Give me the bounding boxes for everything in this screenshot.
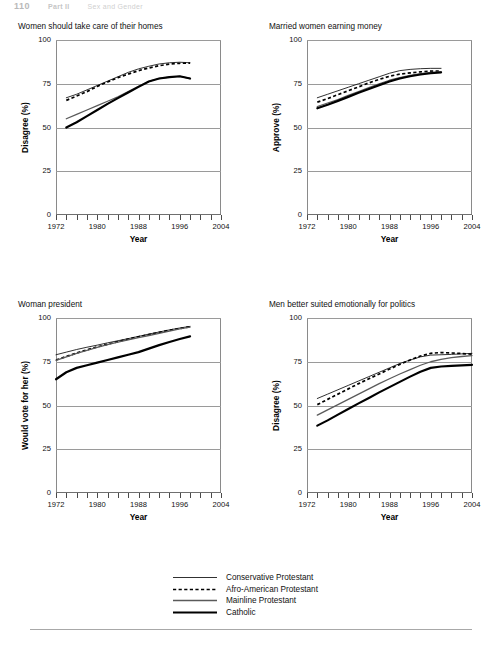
x-tick — [462, 493, 463, 498]
x-tick — [472, 215, 473, 220]
x-tick — [139, 215, 140, 220]
series-layer — [307, 318, 472, 493]
x-tick — [87, 493, 88, 498]
x-tick — [307, 493, 308, 498]
x-axis-title: Year — [307, 234, 472, 244]
x-tick — [472, 493, 473, 498]
x-tick — [307, 215, 308, 220]
x-tick-label: 1988 — [122, 500, 156, 509]
series-line — [317, 72, 441, 108]
figure-legend: Conservative ProtestantAfro-American Pro… — [0, 572, 502, 618]
x-tick — [420, 215, 421, 220]
x-tick-label: 1980 — [331, 222, 365, 231]
x-tick — [169, 215, 170, 220]
y-axis-title: Would vote for her (%) — [20, 318, 30, 493]
x-tick — [200, 493, 201, 498]
x-tick — [379, 493, 380, 498]
x-tick — [149, 215, 150, 220]
legend-label: Mainline Protestant — [226, 596, 296, 605]
x-tick-label: 1980 — [80, 222, 114, 231]
legend-item: Mainline Protestant — [0, 595, 502, 607]
x-tick — [66, 493, 67, 498]
x-tick-label: 2004 — [204, 222, 238, 231]
x-tick — [77, 493, 78, 498]
x-tick — [200, 215, 201, 220]
x-tick — [328, 493, 329, 498]
page-number: 110 — [14, 1, 30, 11]
x-tick — [128, 493, 129, 498]
x-tick — [462, 215, 463, 220]
y-axis-title: Approve (%) — [271, 40, 281, 215]
series-line — [66, 76, 190, 127]
panel-row-bottom: Woman president0255075100Would vote for … — [0, 300, 502, 578]
legend-swatch — [173, 595, 217, 606]
x-tick-label: 2004 — [204, 500, 238, 509]
x-tick — [221, 493, 222, 498]
x-tick — [400, 493, 401, 498]
chart-title: Men better suited emotionally for politi… — [269, 300, 415, 309]
x-tick — [328, 215, 329, 220]
plot-area — [56, 40, 221, 215]
x-tick — [359, 493, 360, 498]
x-tick — [118, 215, 119, 220]
x-tick — [221, 215, 222, 220]
x-tick — [77, 215, 78, 220]
series-line — [317, 71, 441, 102]
x-tick — [211, 215, 212, 220]
x-axis-title: Year — [307, 512, 472, 522]
x-tick-label: 1996 — [414, 500, 448, 509]
chart-panel-1: Women should take care of their homes025… — [0, 22, 251, 300]
series-line — [56, 336, 190, 379]
x-tick — [420, 493, 421, 498]
x-tick-label: 1972 — [290, 222, 324, 231]
panel-row-top: Women should take care of their homes025… — [0, 22, 502, 300]
plot-area — [307, 318, 472, 493]
x-tick-label: 2004 — [455, 222, 489, 231]
x-tick — [338, 215, 339, 220]
x-tick — [359, 215, 360, 220]
y-axis-title: Disagree (%) — [271, 318, 281, 493]
x-tick — [180, 215, 181, 220]
x-tick — [159, 215, 160, 220]
x-tick — [410, 215, 411, 220]
chart-panel-2: Married women earning money0255075100App… — [251, 22, 502, 300]
legend-label: Conservative Protestant — [226, 573, 313, 582]
x-tick — [451, 215, 452, 220]
x-tick — [317, 215, 318, 220]
chart-title: Women should take care of their homes — [18, 22, 163, 31]
x-tick — [118, 493, 119, 498]
section-title: Sex and Gender — [88, 3, 143, 10]
x-tick — [431, 215, 432, 220]
x-tick-marks — [56, 493, 221, 499]
x-tick-label: 1988 — [373, 222, 407, 231]
legend-item: Afro-American Protestant — [0, 584, 502, 596]
x-tick — [190, 215, 191, 220]
x-tick-label: 1972 — [39, 222, 73, 231]
x-tick — [348, 215, 349, 220]
x-tick — [180, 493, 181, 498]
x-tick-label: 1996 — [163, 222, 197, 231]
x-tick-marks — [307, 493, 472, 499]
x-tick — [159, 493, 160, 498]
x-tick-marks — [307, 215, 472, 221]
x-tick-label: 1972 — [290, 500, 324, 509]
x-tick — [338, 493, 339, 498]
footer-rule — [30, 629, 472, 630]
legend-item: Conservative Protestant — [0, 572, 502, 584]
series-line — [66, 76, 190, 118]
x-tick-label: 2004 — [455, 500, 489, 509]
x-tick — [390, 215, 391, 220]
x-tick — [56, 493, 57, 498]
series-line — [317, 352, 472, 404]
series-layer — [56, 318, 221, 493]
x-tick — [66, 215, 67, 220]
x-tick — [441, 493, 442, 498]
x-tick — [56, 215, 57, 220]
x-axis-title: Year — [56, 512, 221, 522]
chart-title: Woman president — [18, 300, 82, 309]
x-tick — [87, 215, 88, 220]
x-tick — [369, 215, 370, 220]
x-tick — [410, 493, 411, 498]
series-line — [317, 365, 472, 426]
legend-swatch — [173, 584, 217, 595]
